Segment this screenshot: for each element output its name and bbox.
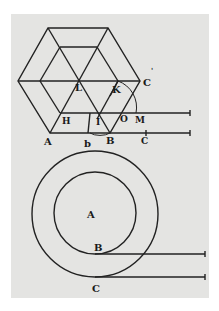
label-a: A: [43, 136, 52, 147]
label-o: O: [120, 114, 128, 124]
circle-labels: A B C: [86, 209, 102, 294]
label-b: B: [106, 135, 114, 146]
label-h: H: [62, 116, 71, 126]
arc-km: [118, 81, 137, 113]
circles-diagram: [32, 151, 205, 280]
label-l: L: [75, 82, 82, 93]
label-m: M: [135, 115, 145, 125]
label-circle-c: C: [92, 283, 100, 294]
hexagon-diagram: [18, 28, 190, 136]
outer-circle: [32, 151, 158, 277]
label-c-prime: ': [151, 66, 153, 75]
geometry-figure: A b B C ' L K H I O M C A B C: [0, 0, 219, 311]
label-c-lower: C: [141, 136, 148, 146]
label-k: K: [112, 84, 121, 95]
label-c: C: [143, 77, 151, 88]
label-center-a: A: [86, 209, 95, 220]
label-i: I: [96, 117, 100, 127]
label-circle-b: B: [94, 242, 102, 253]
label-b-small: b: [84, 138, 91, 149]
